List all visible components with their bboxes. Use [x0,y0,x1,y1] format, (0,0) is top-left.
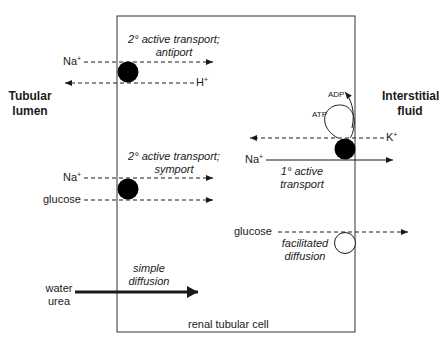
facilitated-glucose-label: glucose [234,225,272,238]
simple-mechanism-label: simple diffusion [124,262,174,288]
symport-glucose-label: glucose [43,193,81,206]
pump-na-label: Na+ [245,153,263,166]
symport-carrier-icon [118,179,139,200]
tubular-lumen-line2: lumen [8,104,52,119]
pump-carrier-icon [335,139,356,160]
antiport-h-label: H+ [196,76,208,89]
interstitial-line1: Interstitial [382,89,438,104]
tubular-lumen-label: Tubular lumen [8,89,52,119]
symport-line1: 2° active transport; [124,150,224,163]
water-label: water [44,282,74,295]
urea-label: urea [44,295,74,308]
simple-line2: diffusion [124,275,174,288]
facilitated-mechanism-label: facilitated diffusion [275,237,335,263]
symport-mechanism-label: 2° active transport; symport [124,150,224,176]
tubular-lumen-line1: Tubular [8,89,52,104]
antiport-line1: 2° active transport; [124,33,224,46]
symport-na-label: Na+ [63,171,81,184]
pump-mechanism-label: 1° active transport [272,165,332,191]
simple-line1: simple [124,262,174,275]
pump-line2: transport [272,178,332,191]
adp-label: ADP [328,90,344,100]
atp-adp-curve-arrow [325,105,355,138]
atp-label: ATP [312,110,327,120]
facilitated-line1: facilitated [275,237,335,250]
interstitial-fluid-label: Interstitial fluid [382,89,438,119]
facilitated-line2: diffusion [275,250,335,263]
antiport-na-label: Na+ [63,55,81,68]
water-urea-label: water urea [44,282,74,308]
antiport-carrier-icon [118,62,139,83]
antiport-line2: antiport [124,46,224,59]
pump-k-label: K+ [386,131,397,144]
interstitial-line2: fluid [382,104,438,119]
cell-label: renal tubular cell [188,318,269,331]
antiport-mechanism-label: 2° active transport; antiport [124,33,224,59]
symport-line2: symport [124,163,224,176]
atp-adp-curve-top [345,92,353,128]
facilitated-carrier-icon [335,233,356,254]
pump-line1: 1° active [272,165,332,178]
